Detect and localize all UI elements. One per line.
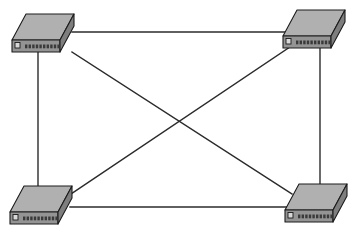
network-diagram <box>0 0 361 240</box>
switch-status-led <box>288 213 293 219</box>
switch-status-led <box>286 39 291 45</box>
link-diagonal-nw-se[interactable] <box>72 52 292 194</box>
link-diagonal-ne-sw[interactable] <box>68 47 290 196</box>
switch-top-left[interactable] <box>12 14 74 52</box>
switch-status-led <box>13 215 18 221</box>
diagram-svg-canvas <box>0 0 361 240</box>
switch-bottom-right[interactable] <box>285 184 347 222</box>
switch-top-right[interactable] <box>283 10 345 48</box>
switch-bottom-left[interactable] <box>10 186 72 224</box>
switch-status-led <box>15 43 20 49</box>
link-layer <box>38 32 320 207</box>
